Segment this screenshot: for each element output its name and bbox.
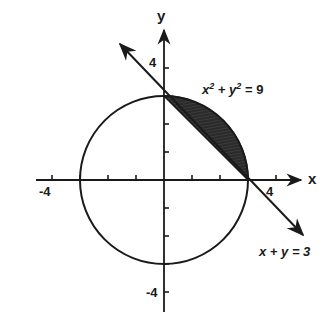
y-tick-label-neg4: -4 (146, 285, 158, 300)
diagram-canvas: y x 4 -4 -4 4 x2 + y2 = 9 x + y = 3 (0, 0, 333, 326)
y-axis-label: y (157, 7, 166, 24)
circle-equation-label: x2 + y2 = 9 (201, 81, 263, 97)
x-tick-label-neg4: -4 (39, 184, 51, 199)
line-equation-label: x + y = 3 (258, 244, 311, 259)
x-axis-label: x (308, 170, 317, 187)
x-tick-label-4: 4 (266, 184, 274, 199)
coordinate-diagram: y x 4 -4 -4 4 x2 + y2 = 9 x + y = 3 (0, 0, 333, 326)
shaded-region (164, 96, 248, 180)
y-tick-label-4: 4 (149, 55, 157, 70)
line-x-plus-y-eq-3 (120, 44, 303, 235)
